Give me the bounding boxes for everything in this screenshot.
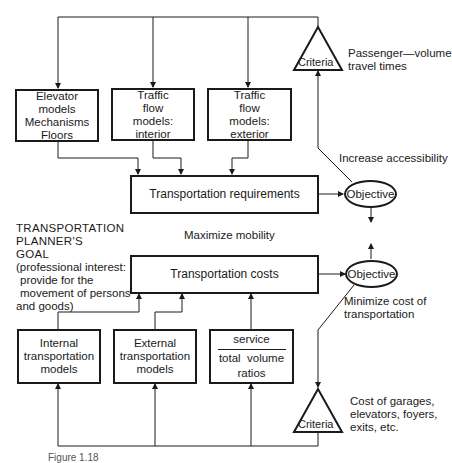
box-line: Elevator xyxy=(36,90,78,103)
box-line: models xyxy=(38,103,75,116)
goal-detail-line: movement of persons xyxy=(16,287,131,300)
service-volume-ratios-box: service total volume ratios xyxy=(209,329,294,384)
ratio-suffix: ratios xyxy=(237,367,265,380)
criteria-bottom-note: Cost of garages, elevators, foyers, exit… xyxy=(350,395,438,434)
box-line: models xyxy=(40,363,77,376)
traffic-flow-interior-box: Traffic flow models: interior xyxy=(111,88,195,141)
box-line: flow xyxy=(239,102,259,115)
maximize-mobility-note: Maximize mobility xyxy=(184,229,275,242)
goal-title-line: PLANNER'S xyxy=(16,235,131,248)
increase-accessibility-note: Increase accessibility xyxy=(339,152,448,165)
goal-title-line: TRANSPORTATION xyxy=(16,222,131,235)
note-line: Cost of garages, xyxy=(350,395,438,408)
box-label: Transportation requirements xyxy=(149,188,299,201)
transportation-costs-box: Transportation costs xyxy=(130,255,319,294)
goal-title-line: GOAL xyxy=(16,248,131,261)
criteria-label-top: Criteria xyxy=(298,56,333,68)
objective-ellipse-bottom: Objective xyxy=(345,260,398,288)
goal-detail-line: provide for the xyxy=(16,274,131,287)
box-label: Transportation costs xyxy=(170,268,278,281)
box-line: Internal xyxy=(40,337,78,350)
ellipse-label: Objective xyxy=(347,188,395,200)
criteria-label-bottom: Criteria xyxy=(298,418,333,430)
note-line: elevators, foyers, xyxy=(350,408,438,421)
ratio-numerator: service xyxy=(233,333,269,346)
box-line: exterior xyxy=(230,128,268,141)
box-line: transportation xyxy=(24,350,94,363)
criteria-top-note: Passenger—volume travel times xyxy=(348,47,452,73)
box-line: models: xyxy=(133,115,173,128)
note-line: Passenger—volume xyxy=(348,47,452,60)
box-line: interior xyxy=(135,128,170,141)
box-line: Traffic xyxy=(234,89,265,102)
internal-transportation-models-box: Internal transportation models xyxy=(17,329,101,384)
note-line: travel times xyxy=(348,60,452,73)
ratio-denominator: total volume xyxy=(219,352,284,365)
box-line: models xyxy=(136,363,173,376)
ellipse-label: Objective xyxy=(348,268,396,280)
traffic-flow-exterior-box: Traffic flow models: exterior xyxy=(207,88,292,141)
objective-ellipse-top: Objective xyxy=(344,180,397,208)
box-line: Traffic xyxy=(137,89,168,102)
note-line: exits, etc. xyxy=(350,421,438,434)
box-line: models: xyxy=(229,115,269,128)
box-line: transportation xyxy=(120,350,190,363)
goal-detail-line: and goods) xyxy=(16,300,131,313)
box-line: Mechanisms xyxy=(25,116,90,129)
fraction-bar xyxy=(218,349,286,350)
box-line: External xyxy=(134,337,176,350)
box-line: flow xyxy=(143,102,163,115)
note-line: Minimize cost of xyxy=(344,295,426,308)
objective-bottom-note: Minimize cost of transportation xyxy=(344,295,426,321)
external-transportation-models-box: External transportation models xyxy=(113,329,197,384)
goal-detail-line: (professional interest: xyxy=(16,261,131,274)
note-line: transportation xyxy=(344,308,426,321)
figure-caption: Figure 1.18 xyxy=(48,452,99,463)
transportation-requirements-box: Transportation requirements xyxy=(130,175,319,214)
elevator-models-box: Elevator models Mechanisms Floors xyxy=(15,89,99,142)
box-line: Floors xyxy=(41,129,73,142)
planner-goal-text: TRANSPORTATION PLANNER'S GOAL (professio… xyxy=(16,222,131,313)
